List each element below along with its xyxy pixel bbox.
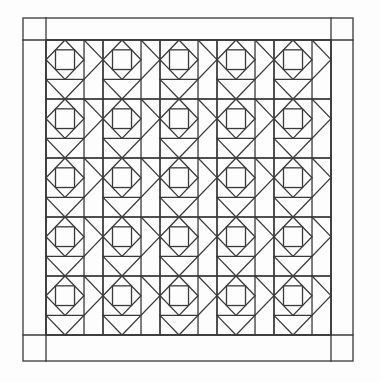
inner-square — [284, 109, 303, 129]
right-strip-diagonal — [198, 217, 217, 237]
bottom-strip-diagonal — [217, 79, 236, 99]
diamond — [103, 276, 141, 315]
quilt-block — [160, 158, 217, 217]
quilt-block — [160, 40, 217, 99]
bottom-strip-diagonal — [103, 138, 122, 158]
diamond — [274, 99, 312, 138]
right-strip-diagonal — [255, 40, 274, 60]
bottom-strip-diagonal — [217, 138, 236, 158]
diamond — [217, 158, 255, 197]
inner-square — [170, 286, 189, 306]
bottom-strip-diagonal — [46, 315, 65, 335]
right-strip-diagonal — [198, 99, 217, 119]
inner-square — [170, 168, 189, 188]
quilt-block — [274, 217, 331, 276]
right-strip-diagonal — [198, 276, 217, 296]
right-strip-diagonal — [84, 158, 103, 178]
quilt-block — [217, 40, 274, 99]
diamond — [103, 40, 141, 79]
bottom-strip-diagonal — [217, 197, 236, 217]
diamond — [103, 99, 141, 138]
right-strip-diagonal — [141, 158, 160, 178]
quilt-block — [274, 99, 331, 158]
quilt-block — [217, 158, 274, 217]
diamond — [274, 217, 312, 256]
right-strip-diagonal — [312, 276, 331, 296]
right-strip-diagonal — [312, 158, 331, 178]
right-strip-diagonal — [255, 158, 274, 178]
quilt-block — [274, 40, 331, 99]
quilt-block — [103, 99, 160, 158]
diamond — [103, 217, 141, 256]
diamond — [46, 158, 84, 197]
inner-square — [284, 286, 303, 306]
inner-square — [284, 50, 303, 70]
inner-square — [227, 109, 246, 129]
right-strip-diagonal — [198, 158, 217, 178]
right-strip-diagonal — [141, 276, 160, 296]
bottom-strip-diagonal — [46, 79, 65, 99]
quilt-blocks — [46, 40, 331, 335]
bottom-strip-diagonal — [274, 79, 293, 99]
right-strip-diagonal — [255, 99, 274, 119]
right-strip-diagonal — [255, 276, 274, 296]
bottom-strip-diagonal — [160, 79, 179, 99]
bottom-strip-diagonal — [103, 197, 122, 217]
inner-square — [284, 168, 303, 188]
diamond — [160, 99, 198, 138]
diamond — [46, 99, 84, 138]
quilt-block — [46, 158, 103, 217]
diamond — [160, 217, 198, 256]
diamond — [274, 40, 312, 79]
right-strip-diagonal — [312, 40, 331, 60]
right-strip-diagonal — [312, 217, 331, 237]
quilt-block — [103, 217, 160, 276]
diamond — [103, 158, 141, 197]
quilt-block — [160, 99, 217, 158]
bottom-strip-diagonal — [46, 138, 65, 158]
right-strip-diagonal — [84, 99, 103, 119]
bottom-strip-diagonal — [46, 197, 65, 217]
bottom-strip-diagonal — [217, 256, 236, 276]
quilt-diagram — [0, 0, 380, 382]
inner-square — [56, 286, 75, 306]
inner-square — [227, 286, 246, 306]
diamond — [46, 276, 84, 315]
right-strip-diagonal — [255, 217, 274, 237]
quilt-block — [217, 217, 274, 276]
bottom-strip-diagonal — [160, 256, 179, 276]
diamond — [160, 276, 198, 315]
quilt-block — [274, 276, 331, 335]
bottom-strip-diagonal — [46, 256, 65, 276]
inner-square — [170, 50, 189, 70]
inner-square — [227, 50, 246, 70]
diamond — [217, 276, 255, 315]
inner-square — [113, 50, 132, 70]
bottom-strip-diagonal — [103, 256, 122, 276]
inner-square — [56, 109, 75, 129]
inner-square — [56, 227, 75, 247]
diamond — [217, 217, 255, 256]
right-strip-diagonal — [84, 276, 103, 296]
right-strip-diagonal — [141, 99, 160, 119]
right-strip-diagonal — [84, 217, 103, 237]
quilt-block — [160, 276, 217, 335]
right-strip-diagonal — [312, 99, 331, 119]
bottom-strip-diagonal — [274, 256, 293, 276]
diamond — [274, 276, 312, 315]
inner-square — [227, 168, 246, 188]
quilt-block — [274, 158, 331, 217]
inner-square — [170, 109, 189, 129]
inner-square — [56, 168, 75, 188]
inner-square — [227, 227, 246, 247]
inner-square — [113, 109, 132, 129]
bottom-strip-diagonal — [160, 315, 179, 335]
inner-square — [113, 168, 132, 188]
inner-square — [170, 227, 189, 247]
inner-square — [56, 50, 75, 70]
quilt-block — [46, 40, 103, 99]
bottom-strip-diagonal — [274, 315, 293, 335]
diamond — [160, 40, 198, 79]
bottom-strip-diagonal — [160, 138, 179, 158]
quilt-block — [46, 99, 103, 158]
